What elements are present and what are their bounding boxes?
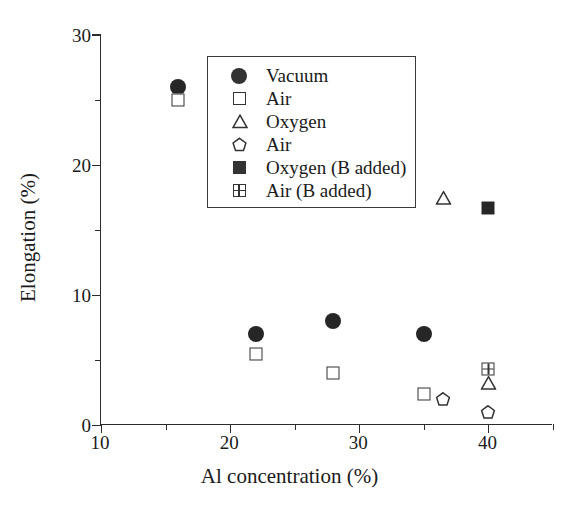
legend-item: Oxygen: [208, 110, 415, 133]
y-axis-tick-label: 10: [72, 286, 91, 305]
legend-item: Air (B added): [208, 179, 415, 202]
data-point-open-square: [249, 347, 262, 360]
y-axis-tick-minor: [95, 100, 101, 101]
x-axis-tick-label: 10: [91, 433, 110, 452]
x-axis-tick-labels: 10203040: [100, 433, 552, 459]
data-point-filled-circle: [325, 313, 341, 329]
y-axis-tick-major: [92, 425, 101, 426]
legend-marker: [224, 181, 254, 201]
legend-item-label: Oxygen (B added): [254, 158, 406, 177]
y-axis-tick-major: [92, 165, 101, 166]
legend-marker: [224, 112, 254, 132]
open-pentagon-marker-icon: [232, 137, 247, 152]
legend-item-label: Vacuum: [254, 66, 328, 85]
data-point-open-pentagon: [436, 392, 451, 407]
x-axis-tick-label: 30: [349, 433, 368, 452]
data-point-open-pentagon: [481, 405, 496, 420]
legend-item: Oxygen (B added): [208, 156, 415, 179]
y-axis-tick-major: [92, 295, 101, 296]
y-axis-tick-label: 20: [72, 156, 91, 175]
data-point-open-square: [327, 367, 340, 380]
filled-square-marker-icon: [233, 161, 246, 174]
grid-square-marker-icon: [233, 184, 246, 197]
data-point-filled-circle: [248, 326, 264, 342]
x-axis-tick-label: 20: [220, 433, 239, 452]
x-axis-tick-label: 40: [478, 433, 497, 452]
legend-item-label: Oxygen: [254, 112, 326, 131]
y-axis-tick-label: 30: [72, 26, 91, 45]
x-axis-tick-minor: [424, 424, 425, 430]
legend-item-label: Air: [254, 89, 291, 108]
chart-legend: VacuumAirOxygenAirOxygen (B added)Air (B…: [207, 56, 416, 208]
x-axis-tick-minor: [553, 424, 554, 430]
data-point-open-square: [172, 94, 185, 107]
y-axis-tick-minor: [95, 360, 101, 361]
data-point-open-square: [417, 387, 430, 400]
legend-marker: [224, 135, 254, 155]
scatter-chart-figure: 0102030 10203040 Al concentration (%) El…: [0, 0, 579, 509]
x-axis-tick-minor: [295, 424, 296, 430]
legend-marker: [224, 66, 254, 86]
legend-marker: [224, 158, 254, 178]
legend-item: Air: [208, 87, 415, 110]
x-axis-tick-minor: [166, 424, 167, 430]
y-axis-tick-labels: 0102030: [55, 35, 91, 425]
data-point-open-triangle: [436, 190, 451, 205]
legend-item-label: Air: [254, 135, 291, 154]
open-triangle-marker-icon: [232, 114, 247, 129]
data-point-grid-square: [482, 363, 495, 376]
y-axis-tick-minor: [95, 230, 101, 231]
x-axis-title: Al concentration (%): [0, 464, 579, 489]
open-square-marker-icon: [233, 92, 246, 105]
legend-item: Air: [208, 133, 415, 156]
data-point-open-triangle: [481, 376, 496, 391]
legend-item: Vacuum: [208, 64, 415, 87]
y-axis-title: Elongation (%): [16, 138, 41, 338]
legend-marker: [224, 89, 254, 109]
y-axis-tick-major: [92, 35, 101, 36]
data-point-filled-circle: [416, 326, 432, 342]
legend-item-label: Air (B added): [254, 181, 372, 200]
data-point-filled-square: [482, 201, 495, 214]
filled-circle-marker-icon: [231, 68, 247, 84]
